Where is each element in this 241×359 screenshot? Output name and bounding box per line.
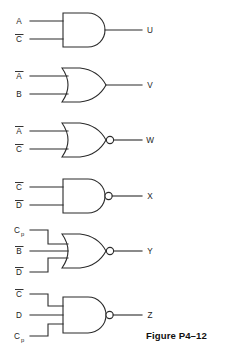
input-label-1-subscript: p — [21, 231, 24, 237]
gate-u: A C U — [15, 13, 153, 47]
output-label: U — [147, 26, 153, 35]
or-gate-body — [62, 68, 106, 102]
input-label-2: C — [16, 35, 22, 44]
input-label-1: A — [16, 72, 22, 81]
gate-diagram-canvas: A C U A B V A C W — [0, 0, 241, 359]
input-label-3: C — [14, 332, 20, 341]
gate-v: A B V — [15, 68, 153, 102]
gate-z: C D C p Z — [14, 290, 152, 343]
output-inversion-bubble — [106, 136, 113, 143]
output-label: X — [147, 192, 153, 201]
input-label-2: B — [16, 90, 22, 99]
input-label-3: D — [16, 268, 22, 277]
output-inversion-bubble — [105, 192, 112, 199]
output-inversion-bubble — [106, 247, 113, 254]
nand-gate-body — [63, 297, 106, 333]
input-label-1: A — [16, 127, 22, 136]
and-gate-body — [63, 13, 105, 47]
input-label-1: C — [14, 226, 20, 235]
output-inversion-bubble — [106, 311, 113, 318]
input-label-2: B — [16, 247, 22, 256]
input-wire-1 — [30, 294, 63, 306]
figure-caption: Figure P4–12 — [146, 330, 207, 341]
output-label: Y — [147, 247, 153, 256]
logic-gate-figure: A C U A B V A C W — [0, 0, 241, 359]
input-wire-3 — [30, 258, 68, 272]
gate-w: A C W — [15, 123, 154, 157]
gate-y: C p B D Y — [14, 226, 153, 277]
output-label: W — [146, 136, 154, 145]
input-label-2: C — [16, 145, 22, 154]
input-label-1: C — [16, 183, 22, 192]
nor-gate-body — [62, 234, 106, 268]
input-label-1: A — [16, 17, 22, 26]
gate-x: C D X — [15, 179, 153, 213]
input-wire-3 — [30, 324, 63, 336]
input-label-1: C — [16, 290, 22, 299]
input-label-2: D — [16, 311, 22, 320]
nor-gate-body — [62, 123, 106, 157]
output-label: Z — [147, 311, 152, 320]
output-label: V — [147, 81, 153, 90]
input-label-3-subscript: p — [21, 337, 24, 343]
input-label-2: D — [16, 201, 22, 210]
nand-gate-body — [63, 179, 105, 213]
input-wire-1 — [30, 230, 68, 244]
